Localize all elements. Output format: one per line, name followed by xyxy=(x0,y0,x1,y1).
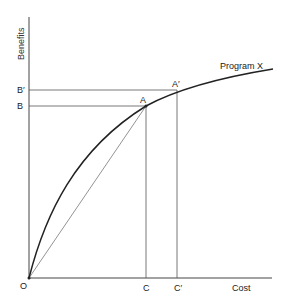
point-a-prime-label: A′ xyxy=(172,79,180,89)
tick-c: C xyxy=(143,283,150,293)
ray-o-to-a xyxy=(29,106,146,278)
program-x-curve xyxy=(29,69,273,278)
tick-b: B xyxy=(17,101,23,111)
curve-label-program-x: Program X xyxy=(220,61,263,71)
tick-b-prime: B′ xyxy=(17,85,25,95)
origin-label: O xyxy=(20,281,27,291)
point-a-label: A xyxy=(140,95,146,105)
y-axis-label: Benefits xyxy=(16,27,26,60)
tick-c-prime: C′ xyxy=(174,283,182,293)
x-axis-label: Cost xyxy=(232,283,251,293)
benefit-cost-diagram xyxy=(0,0,287,299)
point-o-dot xyxy=(28,277,31,280)
